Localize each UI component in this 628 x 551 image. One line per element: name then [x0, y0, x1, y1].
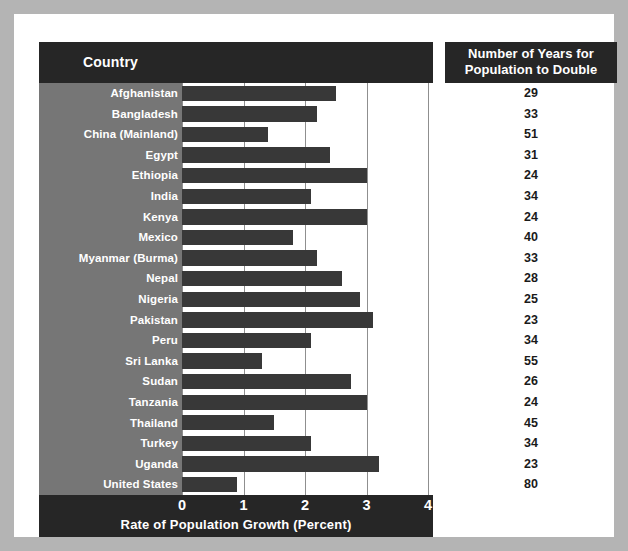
plot-area: AfghanistanBangladeshChina (Mainland)Egy…: [39, 83, 433, 495]
row-label-turkey: Turkey: [39, 433, 178, 454]
bar-united-states: [182, 477, 237, 492]
doubling-years-value: 26: [445, 371, 617, 392]
years-column-header: Number of Years for Population to Double: [445, 42, 617, 83]
row-label-peru: Peru: [39, 330, 178, 351]
chart-row: Afghanistan: [39, 83, 433, 104]
row-label-sudan: Sudan: [39, 371, 178, 392]
bar-sudan: [182, 374, 351, 389]
row-label-pakistan: Pakistan: [39, 310, 178, 331]
doubling-years-value: 29: [445, 83, 617, 104]
row-label-afghanistan: Afghanistan: [39, 83, 178, 104]
x-tick-label-0: 0: [167, 497, 197, 513]
chart-row: Nepal: [39, 268, 433, 289]
row-label-india: India: [39, 186, 178, 207]
bar-tanzania: [182, 395, 367, 410]
x-axis-title: Rate of Population Growth (Percent): [39, 517, 433, 532]
years-header-line1: Number of Years for: [445, 46, 617, 62]
country-header-label: Country: [83, 54, 138, 70]
doubling-years-value: 24: [445, 165, 617, 186]
row-label-thailand: Thailand: [39, 413, 178, 434]
chart-row: Sri Lanka: [39, 351, 433, 372]
doubling-years-value: 23: [445, 454, 617, 475]
row-label-nepal: Nepal: [39, 268, 178, 289]
row-label-ethiopia: Ethiopia: [39, 165, 178, 186]
x-tick-label-2: 2: [290, 497, 320, 513]
bar-nigeria: [182, 292, 360, 307]
doubling-years-value: 33: [445, 248, 617, 269]
doubling-years-value: 24: [445, 207, 617, 228]
bar-pakistan: [182, 312, 373, 327]
bar-thailand: [182, 415, 274, 430]
row-label-uganda: Uganda: [39, 454, 178, 475]
x-tick-label-4: 4: [413, 497, 443, 513]
chart-row: Kenya: [39, 207, 433, 228]
chart-row: India: [39, 186, 433, 207]
row-label-china-mainland: China (Mainland): [39, 124, 178, 145]
doubling-years-value: 34: [445, 330, 617, 351]
chart-row: Egypt: [39, 145, 433, 166]
chart-row: Turkey: [39, 433, 433, 454]
bar-nepal: [182, 271, 342, 286]
chart-row: Pakistan: [39, 310, 433, 331]
bar-peru: [182, 333, 311, 348]
bar-myanmar-burma: [182, 250, 317, 265]
bar-ethiopia: [182, 168, 367, 183]
bar-india: [182, 189, 311, 204]
chart-row: Sudan: [39, 371, 433, 392]
chart-row: Ethiopia: [39, 165, 433, 186]
country-column-header: Country: [39, 42, 433, 83]
doubling-years-value: 51: [445, 124, 617, 145]
doubling-years-value: 80: [445, 474, 617, 495]
doubling-years-value: 34: [445, 433, 617, 454]
row-label-nigeria: Nigeria: [39, 289, 178, 310]
row-label-united-states: United States: [39, 474, 178, 495]
doubling-years-value: 24: [445, 392, 617, 413]
bar-kenya: [182, 209, 367, 224]
doubling-years-value: 55: [445, 351, 617, 372]
chart-row: Bangladesh: [39, 104, 433, 125]
bar-egypt: [182, 147, 330, 162]
chart-rows: AfghanistanBangladeshChina (Mainland)Egy…: [39, 83, 433, 495]
chart-row: Mexico: [39, 227, 433, 248]
row-label-bangladesh: Bangladesh: [39, 104, 178, 125]
chart-row: Thailand: [39, 413, 433, 434]
doubling-years-value: 34: [445, 186, 617, 207]
figure-inner: Country Number of Years for Population t…: [14, 14, 614, 537]
figure-frame: Country Number of Years for Population t…: [0, 0, 628, 551]
row-label-egypt: Egypt: [39, 145, 178, 166]
row-label-sri-lanka: Sri Lanka: [39, 351, 178, 372]
chart-row: United States: [39, 474, 433, 495]
doubling-years-value: 25: [445, 289, 617, 310]
bar-china-mainland: [182, 127, 268, 142]
x-tick-label-3: 3: [352, 497, 382, 513]
bar-turkey: [182, 436, 311, 451]
doubling-years-value: 45: [445, 413, 617, 434]
chart-row: Myanmar (Burma): [39, 248, 433, 269]
chart-row: Tanzania: [39, 392, 433, 413]
bar-uganda: [182, 456, 379, 471]
x-tick-label-1: 1: [229, 497, 259, 513]
row-label-tanzania: Tanzania: [39, 392, 178, 413]
chart-row: Peru: [39, 330, 433, 351]
row-label-kenya: Kenya: [39, 207, 178, 228]
row-label-myanmar-burma: Myanmar (Burma): [39, 248, 178, 269]
bar-mexico: [182, 230, 293, 245]
row-label-mexico: Mexico: [39, 227, 178, 248]
bar-afghanistan: [182, 86, 336, 101]
chart-row: China (Mainland): [39, 124, 433, 145]
chart-row: Uganda: [39, 454, 433, 475]
bar-sri-lanka: [182, 353, 262, 368]
years-header-line2: Population to Double: [445, 62, 617, 78]
doubling-years-value: 28: [445, 268, 617, 289]
doubling-years-column: 2933513124342440332825233455262445342380: [445, 83, 617, 495]
bar-bangladesh: [182, 106, 317, 121]
doubling-years-value: 31: [445, 145, 617, 166]
doubling-years-value: 33: [445, 104, 617, 125]
x-axis-band: 01234 Rate of Population Growth (Percent…: [39, 495, 433, 537]
doubling-years-value: 23: [445, 310, 617, 331]
chart-row: Nigeria: [39, 289, 433, 310]
doubling-years-value: 40: [445, 227, 617, 248]
